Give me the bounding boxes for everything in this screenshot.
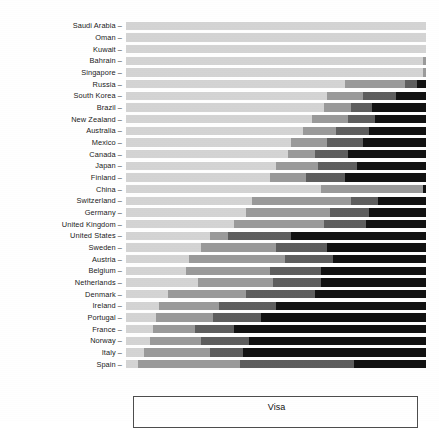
legend-title: Visa [134,402,419,412]
bar-segment [375,115,426,124]
bar-segment [126,185,321,194]
bar-segment [126,232,210,241]
bar-segment [321,278,426,287]
y-axis-tick-label: Brazil – [0,103,122,112]
bar-segment [126,348,144,357]
bar-segment [327,138,363,147]
y-axis-tick-text: Italy [102,348,116,357]
bar-row [126,138,426,147]
y-axis-tick-text: Oman [95,33,116,42]
bar-segment [363,138,426,147]
y-axis-tick-text: Austria [92,255,116,264]
bar-segment [321,267,426,276]
y-axis-tick-label: Canada – [0,150,122,159]
bar-segment [369,208,426,217]
bar-segment [126,337,150,346]
bar-row [126,92,426,101]
bar-row [126,267,426,276]
y-axis-tick-dash: – [116,126,122,135]
bar-segment [126,278,198,287]
bar-segment [198,278,273,287]
bar-segment [126,220,234,229]
y-axis-tick-dash: – [116,243,122,252]
bar-segment [126,92,327,101]
bar-segment [126,290,168,299]
y-axis-tick-text: Saudi Arabia [73,21,116,30]
bar-segment [126,150,288,159]
bar-segment [363,92,396,101]
bar-segment [261,313,426,322]
y-axis-tick-label: Japan – [0,161,122,170]
bar-segment [126,45,426,54]
bar-segment [336,127,369,136]
y-axis-tick-text: Netherlands [75,278,116,287]
bar-segment [156,313,213,322]
bar-segment [372,103,426,112]
y-axis-tick-label: Netherlands – [0,278,122,287]
y-axis-tick-dash: – [116,161,122,170]
y-axis-tick-label: Finland – [0,173,122,182]
bar-segment [423,68,426,77]
bar-row [126,45,426,54]
y-axis-tick-dash: – [116,115,122,124]
bar-segment [126,68,423,77]
y-axis-tick-label: United Kingdom – [0,220,122,229]
bar-segment [348,150,426,159]
bar-row [126,115,426,124]
y-axis-tick-label: Kuwait – [0,45,122,54]
bar-segment [306,173,345,182]
y-axis-tick-text: Singapore [81,68,116,77]
bar-segment [213,313,261,322]
bar-segment [126,208,246,217]
y-axis-tick-dash: – [116,45,122,54]
bar-segment [324,103,351,112]
bar-segment [246,208,330,217]
y-axis-tick-label: China – [0,185,122,194]
bar-row [126,325,426,334]
y-axis-tick-text: Australia [86,126,116,135]
y-axis-tick-text: Norway [90,336,116,345]
y-axis-tick-dash: – [116,231,122,240]
bar-segment [144,348,210,357]
bar-segment [201,337,249,346]
bar-segment [126,138,291,147]
y-axis-tick-dash: – [116,138,122,147]
y-axis-tick-label: Sweden – [0,243,122,252]
y-axis-tick-dash: – [116,220,122,229]
y-axis-tick-label: Singapore – [0,68,122,77]
y-axis-tick-text: Mexico [92,138,116,147]
bar-row [126,348,426,357]
bar-row [126,103,426,112]
bar-segment [354,360,426,369]
bar-segment [351,197,378,206]
y-axis-tick-text: Switzerland [76,196,115,205]
bar-segment [186,267,270,276]
bar-row [126,360,426,369]
bar-row [126,68,426,77]
bar-segment [240,360,354,369]
y-axis-tick-dash: – [116,348,122,357]
y-axis-tick-label: Russia – [0,80,122,89]
bar-segment [291,232,426,241]
bar-segment [291,138,327,147]
bar-row [126,173,426,182]
y-axis-tick-dash: – [116,208,122,217]
y-axis-tick-label: Spain – [0,360,122,369]
y-axis-tick-text: Ireland [92,301,115,310]
y-axis-tick-text: United States [70,231,116,240]
bar-segment [303,127,336,136]
bar-segment [126,197,252,206]
bar-segment [228,232,291,241]
y-axis-tick-label: New Zealand – [0,115,122,124]
y-axis-tick-dash: – [116,301,122,310]
bar-segment [126,173,270,182]
y-axis-tick-text: France [92,325,116,334]
bar-segment [312,115,348,124]
bar-segment [201,243,276,252]
bar-segment [270,267,321,276]
bar-segment [351,103,372,112]
bar-segment [276,302,426,311]
bar-segment [126,103,324,112]
bar-segment [357,162,426,171]
bar-segment [159,302,219,311]
